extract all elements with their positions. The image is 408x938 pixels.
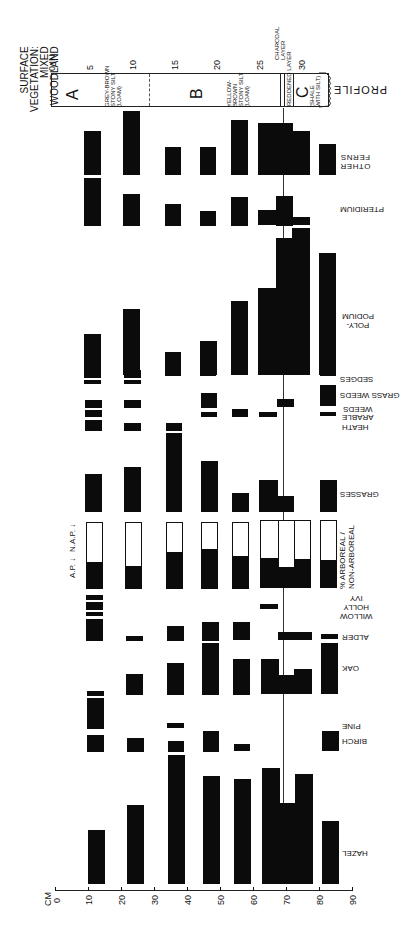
ivy-bar bbox=[86, 595, 103, 600]
ap-nap-line-2: NON-ARBOREAL bbox=[347, 525, 356, 589]
other-ferns-label: OTHER FERNS bbox=[340, 153, 371, 171]
hazel-bar bbox=[168, 755, 185, 884]
charcoal-layer-label: CHARCOAL LAYER bbox=[274, 27, 286, 60]
oak-bar bbox=[126, 674, 143, 695]
heath-bar bbox=[166, 423, 182, 431]
arable-line-1: ARABLE bbox=[342, 413, 374, 421]
sedges-bar bbox=[124, 380, 141, 384]
pteridium-bar bbox=[276, 196, 293, 226]
cm-tick bbox=[154, 887, 155, 891]
hazel-bar bbox=[127, 805, 144, 884]
cm-tick bbox=[187, 887, 188, 891]
holly-bar bbox=[86, 602, 103, 610]
grasses-bar bbox=[277, 496, 294, 512]
cm-label-40: 40 bbox=[183, 895, 193, 905]
hazel-bar bbox=[203, 776, 220, 884]
other-ferns-bar bbox=[258, 123, 293, 175]
polypodium-bar bbox=[123, 309, 140, 375]
oak-bar bbox=[167, 663, 184, 695]
cm-tick bbox=[286, 887, 287, 891]
other-ferns-bar bbox=[200, 147, 216, 175]
cm-tick bbox=[88, 887, 89, 891]
pine-bar bbox=[167, 723, 184, 728]
arable-weeds-bar bbox=[232, 409, 248, 417]
other-ferns-line-2: FERNS bbox=[340, 153, 371, 162]
hor-c-line-2: WITH SILT) bbox=[315, 76, 321, 107]
heath-bar bbox=[85, 420, 102, 431]
other-ferns-bar bbox=[123, 111, 140, 175]
horizon-a: A bbox=[64, 89, 82, 100]
cm-tick bbox=[253, 887, 254, 891]
sedges-bar bbox=[320, 370, 336, 376]
polypodium-bar bbox=[319, 253, 336, 375]
arable-weeds-bar bbox=[201, 412, 217, 417]
alder-bar bbox=[126, 636, 143, 641]
holly-bar bbox=[260, 604, 278, 609]
other-ferns-bar bbox=[292, 131, 310, 175]
oak-bar bbox=[321, 643, 338, 694]
pollen-diagram: SURFACE VEGETATION: MIXED WOODLAND 0 IN … bbox=[0, 0, 408, 938]
arable-weeds-bar bbox=[320, 412, 336, 416]
birch-bar bbox=[87, 735, 104, 752]
cm-label-90: 90 bbox=[348, 895, 358, 905]
arable-line-2: WEEDS bbox=[342, 405, 374, 413]
cm-tick bbox=[319, 887, 320, 891]
charcoal-boundary bbox=[280, 73, 281, 107]
birch-label: BIRCH bbox=[342, 737, 367, 746]
pine-bar bbox=[87, 691, 104, 696]
grasses-bar bbox=[85, 474, 102, 512]
hazel-bar bbox=[295, 774, 313, 884]
cm-label-10: 10 bbox=[84, 895, 94, 905]
pteridium-bar bbox=[258, 210, 277, 225]
profile-text: PROFILE bbox=[333, 84, 387, 96]
pine-bar bbox=[87, 698, 104, 729]
pteridium-bar bbox=[123, 194, 140, 226]
cm-label-70: 70 bbox=[282, 895, 292, 905]
oak-bar bbox=[294, 669, 312, 694]
hazel-bar bbox=[262, 768, 280, 884]
reddened-boundary-1 bbox=[284, 73, 285, 107]
grass-weeds-bar bbox=[277, 399, 294, 407]
other-ferns-bar bbox=[231, 120, 248, 175]
pine-label: PINE bbox=[342, 722, 361, 731]
horizon-b-desc: YELLOW- BROWN STONY SILT (LOAM) bbox=[226, 73, 250, 107]
pteridium-bar bbox=[84, 178, 101, 226]
polypodium-bar bbox=[258, 288, 277, 375]
heath-label: HEATH bbox=[342, 423, 369, 432]
in-tick-20: 20 bbox=[212, 60, 222, 70]
cm-axis-line bbox=[55, 890, 353, 891]
ap-fill bbox=[232, 556, 249, 589]
ap-fill bbox=[260, 558, 278, 588]
in-tick-0: 0 IN bbox=[47, 54, 57, 71]
alder-bar bbox=[86, 619, 103, 641]
cm-tick bbox=[352, 887, 353, 891]
cm-label-50: 50 bbox=[216, 895, 226, 905]
holly-label: HOLLY bbox=[340, 603, 372, 612]
cm-label-80: 80 bbox=[315, 895, 325, 905]
grasses-bar bbox=[201, 461, 218, 512]
reddened-layer-label: REDDENED LAYER bbox=[286, 51, 292, 106]
ivy-label: IVY bbox=[340, 594, 372, 603]
grass-weeds-bar bbox=[320, 385, 336, 406]
pteridium-label: PTERIDIUM bbox=[340, 205, 384, 214]
polypodium-bar bbox=[84, 334, 101, 375]
pteridium-bar bbox=[231, 197, 248, 226]
ap-fill bbox=[166, 552, 183, 589]
hazel-bar bbox=[279, 803, 296, 884]
ap-fill bbox=[86, 562, 103, 589]
cm-tick bbox=[121, 887, 122, 891]
arable-weeds-label: ARABLE WEEDS bbox=[342, 405, 374, 421]
sedges-bar bbox=[259, 370, 310, 375]
grasses-bar bbox=[124, 467, 141, 512]
oak-label: OAK bbox=[342, 664, 359, 673]
alder-bar bbox=[278, 632, 312, 640]
oak-bar bbox=[233, 659, 250, 695]
arable-weeds-bar bbox=[259, 412, 277, 417]
in-tick-5: 5 bbox=[85, 65, 95, 70]
grass-weeds-bar bbox=[124, 400, 141, 408]
willow-holly-ivy-label: WILLOW HOLLY IVY bbox=[340, 594, 372, 621]
pteridium-bar bbox=[292, 217, 310, 225]
pteridium-bar bbox=[200, 211, 216, 226]
ap-text: A.P. bbox=[68, 564, 77, 578]
grasses-bar bbox=[259, 480, 278, 512]
